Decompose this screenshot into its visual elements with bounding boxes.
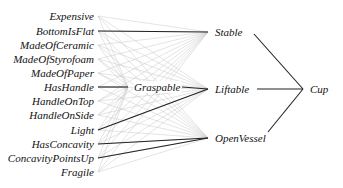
weak-edge (98, 87, 128, 158)
node-handleontop: HandleOnTop (32, 95, 94, 107)
weak-edge (98, 89, 208, 144)
node-cup: Cup (310, 83, 328, 95)
node-madeofpaper: MadeOfPaper (31, 67, 94, 79)
weak-edge (98, 32, 208, 59)
node-fragile: Fragile (61, 166, 94, 178)
node-handleonside: HandleOnSide (29, 109, 94, 121)
node-graspable: Graspable (133, 81, 181, 93)
weak-edge (98, 130, 208, 138)
weak-edge (98, 87, 128, 172)
node-expensive: Expensive (49, 10, 94, 22)
weak-edge (98, 87, 128, 144)
node-stable: Stable (215, 26, 243, 38)
node-hashandle: HasHandle (44, 81, 94, 93)
node-bottomisflat: BottomIsFlat (36, 25, 94, 37)
weak-edge (98, 32, 208, 172)
edge-openvessel-cup (268, 89, 303, 132)
weak-edge (98, 59, 208, 138)
weak-edge (98, 31, 128, 87)
weak-edge (98, 32, 208, 87)
node-hasconcavity: HasConcavity (32, 138, 94, 150)
weak-edge (98, 32, 208, 115)
weak-edge (98, 87, 128, 115)
weak-edge (98, 87, 128, 130)
node-light: Light (71, 124, 94, 136)
node-liftable: Liftable (215, 83, 249, 95)
edge-bottomisflat-stable (98, 31, 208, 32)
edge-stable-cup (254, 34, 303, 89)
node-concavitypointsup: ConcavityPointsUp (8, 152, 94, 164)
weak-edge (98, 16, 208, 32)
node-openvessel: OpenVessel (215, 132, 266, 144)
node-madeofstyrofoam: MadeOfStyrofoam (13, 53, 94, 65)
node-madeofceramic: MadeOfCeramic (20, 39, 94, 51)
network-diagram: Expensive BottomIsFlat MadeOfCeramic Mad… (0, 0, 343, 188)
